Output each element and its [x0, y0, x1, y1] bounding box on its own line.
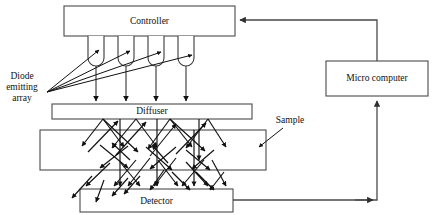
led-2-icon[interactable] [118, 36, 134, 66]
diffuser-label: Diffuser [136, 106, 168, 116]
led-4-icon[interactable] [178, 36, 194, 66]
block-detector[interactable]: Detector [80, 189, 233, 212]
led-3-icon[interactable] [148, 36, 164, 66]
block-micro-computer[interactable]: Micro computer [326, 61, 428, 96]
controller-label: Controller [130, 16, 170, 26]
led-1-icon[interactable] [88, 36, 104, 66]
micro-to-controller-connector [240, 20, 377, 61]
micro-computer-label: Micro computer [346, 73, 408, 83]
block-diffuser[interactable]: Diffuser [52, 104, 252, 119]
system-connections [233, 20, 377, 200]
detector-label: Detector [140, 196, 174, 206]
block-controller[interactable]: Controller [64, 6, 235, 36]
ray [196, 172, 214, 190]
block-diagram-canvas: Controller Micro computer Diffuser Detec… [0, 0, 435, 215]
diode-array-pointer-lines [47, 50, 192, 92]
figure-root: Controller Micro computer Diffuser Detec… [0, 0, 435, 215]
diode-label-line-3: array [12, 93, 32, 103]
led-emission-arrows [96, 66, 186, 101]
sample-box[interactable] [40, 130, 266, 170]
diode-label-line-2: emitting [6, 82, 38, 92]
diode-label-line-1: Diode [10, 71, 33, 81]
block-sample[interactable] [40, 130, 266, 170]
sample-label: Sample [276, 115, 305, 125]
diode-emitting-array-group[interactable] [88, 36, 194, 66]
ray [210, 172, 224, 190]
diode-emitting-array-label-group: Diode emitting array [6, 71, 38, 103]
